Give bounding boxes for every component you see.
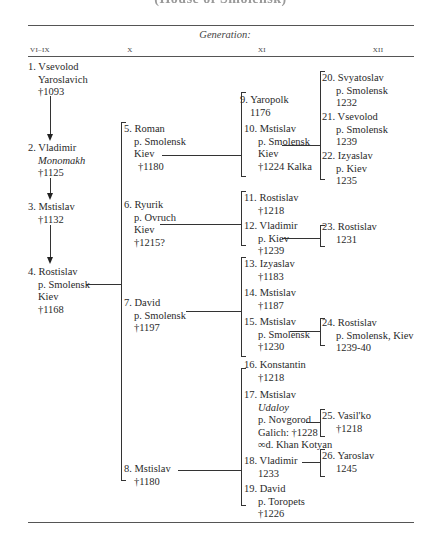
person-13-izyaslav: 13. Izyaslav †1183 — [244, 258, 295, 283]
bracket-xi-7 — [241, 257, 242, 356]
connector-15 — [290, 331, 320, 332]
column-header-xi: XI — [252, 46, 272, 54]
connector-5 — [162, 155, 241, 156]
bracket-xii-18-bottom — [320, 476, 325, 477]
connector-8 — [178, 470, 241, 471]
bracket-xii-12 — [320, 225, 321, 246]
top-rule — [28, 25, 414, 26]
connector-6 — [160, 224, 241, 225]
page-title: (House of Smolensk) — [0, 0, 441, 7]
bracket-xi-8 — [241, 368, 242, 505]
bracket-xii-10 — [320, 71, 321, 179]
person-14-mstislav: 14. Mstislav †1187 — [244, 287, 296, 312]
connector-10 — [282, 145, 320, 146]
bracket-xii-18 — [320, 449, 321, 476]
person-19-david: 19. David p. Toropets †1226 — [244, 483, 305, 521]
bracket-xi-6 — [241, 191, 242, 245]
person-1-vsevolod: 1. Vsevolod Yaroslavich †1093 — [28, 61, 88, 99]
bracket-x — [121, 122, 122, 480]
connector-17 — [306, 422, 320, 423]
person-16-konstantin: 16. Konstantin †1218 — [244, 359, 306, 384]
person-11-rostislav: 11. Rostislav †1218 — [244, 192, 298, 217]
bottom-rule — [28, 522, 414, 523]
bracket-xii-17-bottom — [320, 436, 325, 437]
arrow-down-icon — [47, 257, 53, 264]
bracket-xii-17 — [320, 409, 321, 436]
generation-label: Generation: — [180, 29, 270, 40]
person-8-mstislav: 8. Mstislav †1180 — [124, 463, 171, 488]
connector-12 — [282, 238, 320, 239]
column-header-vi-ix: VI–IX — [20, 46, 60, 54]
connector-4 — [86, 284, 121, 285]
person-26-yaroslav: 26. Yaroslav 1245 — [322, 450, 374, 475]
connector-7 — [186, 311, 241, 312]
descent-line-1-2 — [50, 96, 51, 135]
arrow-down-icon — [47, 134, 53, 141]
person-4-rostislav: 4. Rostislav p. Smolensk Kiev †1168 — [28, 266, 90, 316]
person-10-mstislav: 10. Mstislav p. Smolensk Kiev †1224 Kalk… — [244, 123, 312, 173]
person-21-vsevolod: 21. Vsevolod p. Smolensk 1239 — [322, 111, 388, 149]
column-header-xii: XII — [368, 46, 388, 54]
header-rule — [28, 56, 414, 57]
bracket-xi-5-bottom — [241, 176, 246, 177]
person-7-david: 7. David p. Smolensk †1197 — [124, 297, 186, 335]
person-2-vladimir: 2. Vladimir Monomakh †1125 — [28, 142, 85, 180]
bracket-xii-15 — [320, 318, 321, 345]
descent-line-2-3 — [50, 178, 51, 194]
bracket-xi-5-top — [241, 92, 246, 93]
descent-line-3-4 — [50, 225, 51, 258]
person-20-svyatoslav: 20. Svyatoslav p. Smolensk 1232 — [322, 72, 388, 110]
person-5-roman: 5. Roman p. Smolensk Kiev †1180 — [124, 123, 186, 173]
person-15-mstislav: 15. Mstislav p. Smolensk †1230 — [244, 316, 310, 354]
person-25-vasilko: 25. Vasil'ko †1218 — [322, 410, 371, 435]
bracket-xi-7-bottom — [241, 356, 246, 357]
person-9-yaropolk: 9. Yaropolk 1176 — [240, 94, 289, 119]
person-3-mstislav: 3. Mstislav †1132 — [28, 201, 75, 226]
person-23-rostislav: 23. Rostislav 1231 — [322, 221, 377, 246]
person-22-izyaslav: 22. Izyaslav p. Kiev 1235 — [322, 150, 373, 188]
arrow-down-icon — [47, 193, 53, 200]
bracket-xii-12-bottom — [320, 246, 325, 247]
connector-18 — [302, 462, 320, 463]
person-18-vladimir: 18. Vladimir 1233 — [244, 455, 297, 480]
column-header-x: X — [120, 46, 140, 54]
person-24-rostislav: 24. Rostislav p. Smolensk, Kiev 1239-40 — [322, 317, 414, 355]
